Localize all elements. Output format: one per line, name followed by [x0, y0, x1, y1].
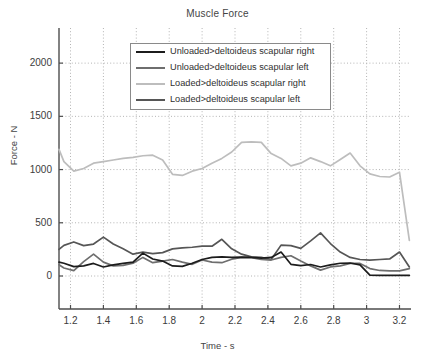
y-tick-label: 0 [16, 270, 52, 281]
x-tick-label: 1.2 [56, 315, 86, 326]
legend-label: Loaded>deltoideus scapular right [170, 79, 306, 88]
series-line [59, 142, 409, 240]
x-tick-label: 3 [352, 315, 382, 326]
x-tick-label: 1.6 [121, 315, 151, 326]
legend-item: Unloaded>deltoideus scapular right [131, 44, 330, 60]
series-line [59, 233, 409, 267]
figure-canvas: Muscle Force Force - N 0500100015002000 … [0, 0, 435, 362]
legend-item: Loaded>deltoideus scapular right [131, 76, 330, 92]
legend-swatch-loaded-right [136, 83, 165, 85]
y-tick-label: 2000 [16, 57, 52, 68]
x-tick-label: 2.6 [286, 315, 316, 326]
legend-label: Loaded>deltoideus scapular left [170, 95, 300, 104]
legend-item: Loaded>deltoideus scapular left [131, 92, 330, 108]
legend: Unloaded>deltoideus scapular right Unloa… [130, 43, 331, 110]
y-tick-label: 1500 [16, 110, 52, 121]
x-tick-label: 2 [187, 315, 217, 326]
x-tick-label: 3.2 [384, 315, 414, 326]
x-tick-label: 2.2 [220, 315, 250, 326]
data-series-layer [59, 142, 409, 276]
y-tick-label: 1000 [16, 164, 52, 175]
x-axis-label: Time - s [0, 340, 435, 351]
x-tick-label: 1.8 [154, 315, 184, 326]
legend-item: Unloaded>deltoideus scapular left [131, 60, 330, 76]
legend-swatch-unloaded-right [136, 51, 165, 53]
x-tick-label: 2.8 [319, 315, 349, 326]
legend-swatch-loaded-left [136, 99, 165, 101]
x-tick-label: 2.4 [253, 315, 283, 326]
legend-swatch-unloaded-left [136, 67, 165, 69]
y-tick-label: 500 [16, 217, 52, 228]
legend-label: Unloaded>deltoideus scapular right [170, 47, 314, 56]
legend-label: Unloaded>deltoideus scapular left [170, 63, 309, 72]
x-tick-label: 1.4 [88, 315, 118, 326]
series-line [59, 252, 409, 275]
